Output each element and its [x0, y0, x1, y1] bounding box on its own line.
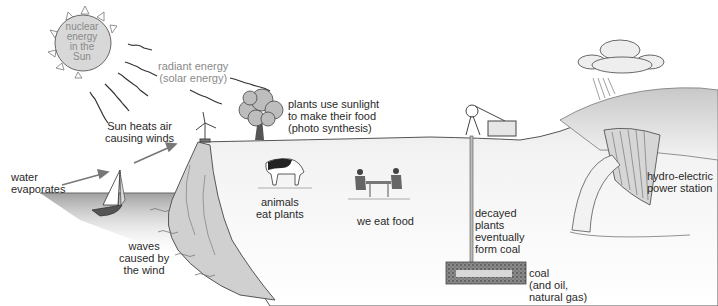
mine-shaft [470, 136, 473, 272]
coal-seam [446, 262, 526, 284]
coal-label: coal (and oil, natural gas) [529, 267, 587, 303]
winds-label: Sun heats air causing winds [105, 120, 174, 144]
sun-label: nuclear energy in the Sun [52, 22, 112, 62]
mine-headframe [466, 105, 516, 136]
photosynthesis-label: plants use sunlight to make their food (… [288, 98, 379, 134]
evaporation-arrow [62, 170, 108, 185]
waves-label: waves caused by the wind [119, 240, 169, 276]
food-label: we eat food [357, 215, 414, 227]
tree [239, 89, 283, 140]
decay-label: decayed plants eventually form coal [475, 207, 525, 255]
hydro-label: hydro-electric power station [647, 170, 713, 194]
evaporation-label: water evaporates [11, 171, 65, 195]
radiant-energy-label: radiant energy (solar energy) [158, 60, 228, 84]
wind-turbine [196, 112, 216, 142]
animals-label: animals eat plants [256, 196, 304, 220]
wind-arrow [134, 143, 176, 163]
